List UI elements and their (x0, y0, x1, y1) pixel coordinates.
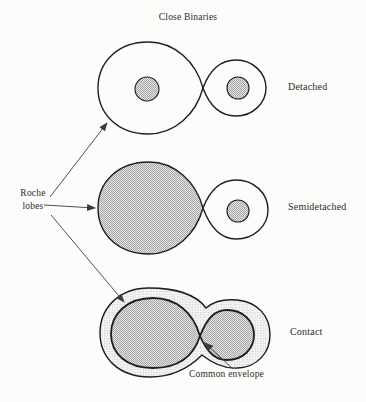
roche-arrow-to-detached (50, 123, 107, 197)
secondary-star-detached (227, 77, 249, 99)
label-roche-lobes-line1: Roche (20, 187, 45, 200)
label-common-envelope: Common envelope (189, 369, 264, 379)
label-contact: Contact (290, 326, 323, 337)
label-roche-lobes: Roche lobes (20, 187, 45, 213)
label-roche-lobes-line2: lobes (20, 200, 45, 213)
detached-system (98, 42, 266, 134)
semidetached-system (98, 162, 268, 254)
close-binaries-figure: Close Binaries Detached Semidetached Con… (0, 0, 366, 402)
figure-title: Close Binaries (159, 12, 217, 22)
label-detached: Detached (288, 81, 327, 92)
contact-system (100, 288, 270, 377)
label-semidetached: Semidetached (288, 201, 347, 212)
roche-arrow-to-semidetached (44, 205, 95, 208)
secondary-star-semidetached (227, 200, 249, 222)
filled-primary-lobe (98, 162, 203, 254)
primary-star-detached (135, 77, 159, 101)
